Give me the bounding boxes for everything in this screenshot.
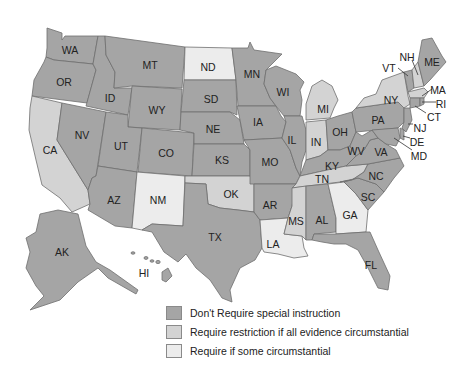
state-label-az: AZ	[107, 194, 121, 206]
state-label-ar: AR	[263, 199, 278, 211]
state-label-wa: WA	[62, 44, 79, 56]
state-label-in: IN	[311, 136, 322, 148]
state-label-ca: CA	[43, 144, 58, 156]
legend-label: Require if some circumstantial	[190, 345, 331, 357]
state-label-il: IL	[288, 134, 297, 146]
state-label-ct: CT	[427, 111, 442, 123]
state-label-la: LA	[267, 238, 280, 250]
state-label-md: MD	[411, 150, 428, 162]
state-label-ne: NE	[206, 123, 221, 135]
state-label-pa: PA	[371, 114, 384, 126]
legend-item-require-some: Require if some circumstantial	[166, 341, 409, 360]
state-label-mt: MT	[142, 59, 158, 71]
state-label-nc: NC	[368, 170, 384, 182]
state-label-fl: FL	[365, 259, 377, 271]
state-label-tx: TX	[208, 231, 221, 243]
state-ct[interactable]	[410, 98, 420, 108]
state-label-va: VA	[374, 146, 387, 158]
state-label-nv: NV	[75, 129, 90, 141]
state-label-al: AL	[316, 214, 329, 226]
state-label-mn: MN	[244, 68, 260, 80]
state-label-wv: WV	[348, 145, 365, 157]
state-label-ia: IA	[253, 116, 263, 128]
legend: Don't Require special instruction Requir…	[166, 303, 409, 360]
legend-swatch-medium	[166, 325, 182, 339]
state-label-id: ID	[105, 92, 116, 104]
state-de[interactable]	[400, 128, 404, 140]
state-label-nj: NJ	[414, 122, 427, 134]
state-label-ky: KY	[325, 160, 339, 172]
state-label-ma: MA	[430, 84, 446, 96]
legend-swatch-dark	[166, 306, 182, 320]
state-label-nh: NH	[399, 51, 414, 63]
state-label-me: ME	[424, 56, 440, 68]
state-label-ks: KS	[215, 154, 229, 166]
legend-item-dont-require: Don't Require special instruction	[166, 303, 409, 322]
state-label-ri: RI	[436, 98, 447, 110]
legend-item-require-restriction: Require restriction if all evidence circ…	[166, 322, 409, 341]
state-label-vt: VT	[382, 62, 396, 74]
state-label-sd: SD	[204, 93, 219, 105]
state-label-wi: WI	[277, 86, 290, 98]
state-hi[interactable]	[131, 252, 172, 282]
state-fl[interactable]	[312, 232, 390, 290]
legend-swatch-light	[166, 344, 182, 358]
state-label-mi: MI	[317, 103, 329, 115]
state-label-or: OR	[56, 76, 72, 88]
state-label-hi: HI	[139, 267, 150, 279]
state-label-sc: SC	[361, 191, 376, 203]
state-label-oh: OH	[332, 126, 348, 138]
state-label-tn: TN	[315, 173, 329, 185]
state-label-nm: NM	[150, 194, 166, 206]
state-label-de: DE	[410, 136, 425, 148]
state-label-ga: GA	[342, 209, 357, 221]
state-label-mo: MO	[262, 156, 279, 168]
state-label-ak: AK	[55, 246, 69, 258]
legend-label: Don't Require special instruction	[190, 307, 340, 319]
state-label-wy: WY	[149, 104, 166, 116]
state-label-co: CO	[158, 147, 174, 159]
state-label-nd: ND	[200, 61, 216, 73]
legend-label: Require restriction if all evidence circ…	[190, 326, 409, 338]
state-label-ok: OK	[223, 188, 238, 200]
state-label-ut: UT	[114, 140, 129, 152]
state-label-ny: NY	[384, 94, 399, 106]
state-label-ms: MS	[288, 215, 304, 227]
